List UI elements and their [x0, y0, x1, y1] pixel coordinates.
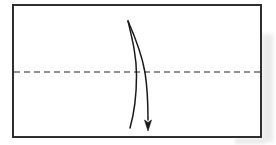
scan-shadow-right-band	[262, 34, 273, 142]
scan-shadow-bottom-smudge	[235, 138, 265, 144]
origami-diagram-figure: Origami step: valley fold along horizont…	[0, 0, 276, 145]
diagram-canvas	[0, 0, 276, 145]
